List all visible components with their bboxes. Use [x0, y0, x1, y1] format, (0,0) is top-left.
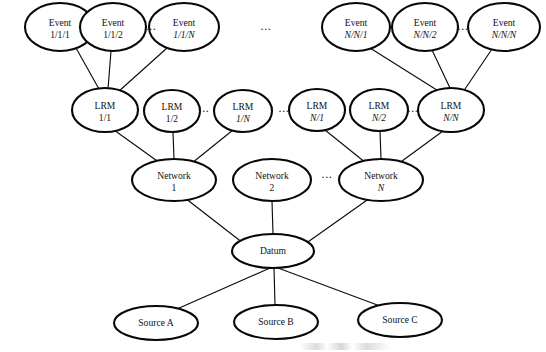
edge-network1-datum [185, 198, 243, 243]
edge-lrm11-network1 [114, 130, 160, 163]
node-label-line1: Network [364, 170, 398, 181]
edge-network2-datum [272, 201, 273, 234]
node-label-line2: N/N/2 [413, 29, 437, 40]
node-label-line2: 1/2 [166, 113, 178, 124]
node-label-line2: 1/1/N [173, 29, 195, 40]
node-network-2[interactable]: Network2 [233, 159, 311, 201]
node-label-line2: N/N [442, 112, 459, 123]
node-label-line2: 1 [172, 182, 177, 193]
edge-eventNN1-lrmNN [370, 48, 440, 92]
node-label-line1: Event [414, 17, 437, 28]
node-label-line1: LRM [441, 100, 462, 111]
node-event-N-N-2[interactable]: EventN/N/2 [392, 3, 458, 51]
node-label-line2: N/N/N [491, 29, 517, 40]
ellipsis-lrm-b: ... [279, 101, 290, 115]
edge-event111-lrm11 [76, 48, 99, 89]
node-event-N-N-1[interactable]: EventN/N/1 [322, 3, 390, 51]
node-label-line1: Event [345, 17, 368, 28]
diagram-canvas: Event1/1/1Event1/1/2Event1/1/NEventN/N/1… [0, 0, 546, 352]
node-source-a[interactable]: Source A [114, 306, 198, 340]
node-network-1[interactable]: Network1 [132, 159, 216, 201]
edge-networkN-datum [305, 198, 370, 244]
edge-lrmN2-networkN [380, 131, 381, 159]
node-lrm-1-1[interactable]: LRM1/1 [72, 88, 138, 132]
node-label-line1: Event [173, 17, 196, 28]
edge-datum-sourceb [274, 268, 275, 305]
node-label-line2: 1/1/1 [50, 29, 70, 40]
ellipsis-lrm-c: ... [408, 101, 419, 115]
node-label-line1: LRM [233, 101, 254, 112]
graph-svg: Event1/1/1Event1/1/2Event1/1/NEventN/N/1… [0, 0, 546, 352]
edge-event112-lrm11 [108, 51, 111, 89]
node-label-line1: Event [49, 17, 72, 28]
node-lrm-N-N[interactable]: LRMN/N [418, 88, 484, 132]
node-label-line1: Event [493, 17, 516, 28]
node-label-line1: Source B [258, 316, 293, 327]
node-label-line2: 1/N [236, 113, 250, 124]
nodes-layer: Event1/1/1Event1/1/2Event1/1/NEventN/N/1… [25, 3, 540, 340]
node-label-line1: Network [255, 170, 289, 181]
node-event-1-1-2[interactable]: Event1/1/2 [80, 3, 146, 51]
node-label-line2: 2 [270, 182, 275, 193]
ellipsis-event-middle: ... [261, 19, 272, 33]
node-label-line1: LRM [95, 100, 116, 111]
node-source-c[interactable]: Source C [358, 303, 442, 337]
ellipsis-event-left: ... [146, 19, 157, 33]
ellipsis-event-right: ... [458, 19, 469, 33]
node-lrm-1-N[interactable]: LRM1/N [214, 90, 272, 132]
node-label-line2: N/2 [371, 112, 386, 123]
node-label-line1: Source C [382, 314, 417, 325]
node-label-line1: Network [157, 170, 191, 181]
node-datum[interactable]: Datum [232, 234, 314, 268]
node-label-line1: LRM [307, 100, 328, 111]
node-label-line1: Datum [260, 245, 287, 256]
edge-eventNN2-lrmNN [432, 50, 450, 88]
node-label-line1: LRM [162, 101, 183, 112]
edge-event11N-lrm11 [118, 48, 167, 92]
node-label-line2: N [377, 182, 385, 193]
edge-lrmNN-networkN [398, 131, 443, 164]
edge-datum-sourcea [177, 268, 270, 309]
node-label-line1: Event [102, 17, 125, 28]
node-lrm-1-2[interactable]: LRM1/2 [144, 90, 200, 132]
edge-lrm1N-network1 [192, 130, 233, 163]
node-label-line1: LRM [369, 100, 390, 111]
node-label-line1: Source A [138, 317, 174, 328]
node-label-line2: N/N/1 [344, 29, 368, 40]
node-network-N[interactable]: NetworkN [339, 159, 423, 201]
ellipsis-lrm-a: ... [199, 101, 210, 115]
node-label-line2: 1/1 [99, 112, 111, 123]
node-event-N-N-N[interactable]: EventN/N/N [468, 3, 540, 51]
node-lrm-N-2[interactable]: LRMN/2 [350, 89, 408, 131]
edge-datum-sourcec [278, 268, 380, 306]
node-label-line2: 1/1/2 [103, 29, 123, 40]
node-event-1-1-N[interactable]: Event1/1/N [149, 3, 219, 51]
node-label-line2: N/1 [309, 112, 324, 123]
ellipsis-network: ... [322, 167, 333, 181]
node-lrm-N-1[interactable]: LRMN/1 [289, 89, 345, 131]
edge-eventNNN-lrmNN [463, 49, 492, 92]
edge-lrm12-network1 [173, 132, 174, 159]
edge-lrmN1-networkN [325, 130, 366, 163]
node-source-b[interactable]: Source B [234, 305, 318, 339]
